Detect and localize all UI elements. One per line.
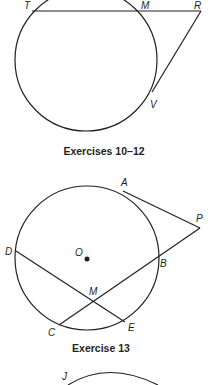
label-A: A	[120, 177, 128, 188]
caption-exercise-13: Exercise 13	[72, 342, 130, 354]
label-M: M	[89, 286, 98, 297]
label-D: D	[5, 246, 12, 257]
chord-DE	[16, 251, 125, 322]
figure-partial-next: J	[61, 371, 158, 385]
secant-PC	[59, 228, 200, 325]
geometry-figures: T M R V Exercises 10–12 A P O B D M C E …	[0, 0, 208, 385]
label-O: O	[75, 247, 83, 258]
label-T: T	[24, 0, 31, 11]
label-E: E	[128, 322, 135, 333]
figure-exercise-13: A P O B D M C E	[5, 177, 203, 338]
tangent-RV	[152, 11, 201, 92]
tangent-AP	[123, 191, 200, 228]
figure-exercises-10-12: T M R V	[15, 0, 201, 131]
label-B: B	[160, 258, 167, 269]
label-C: C	[48, 327, 56, 338]
label-R: R	[194, 0, 201, 11]
label-P: P	[196, 213, 203, 224]
center-point-O	[85, 257, 90, 262]
caption-exercises-10-12: Exercises 10–12	[63, 145, 144, 157]
label-J: J	[61, 371, 68, 382]
circle-3-arc	[68, 373, 158, 385]
circle-1	[15, 0, 157, 131]
label-V: V	[150, 99, 158, 110]
label-M: M	[141, 0, 150, 11]
